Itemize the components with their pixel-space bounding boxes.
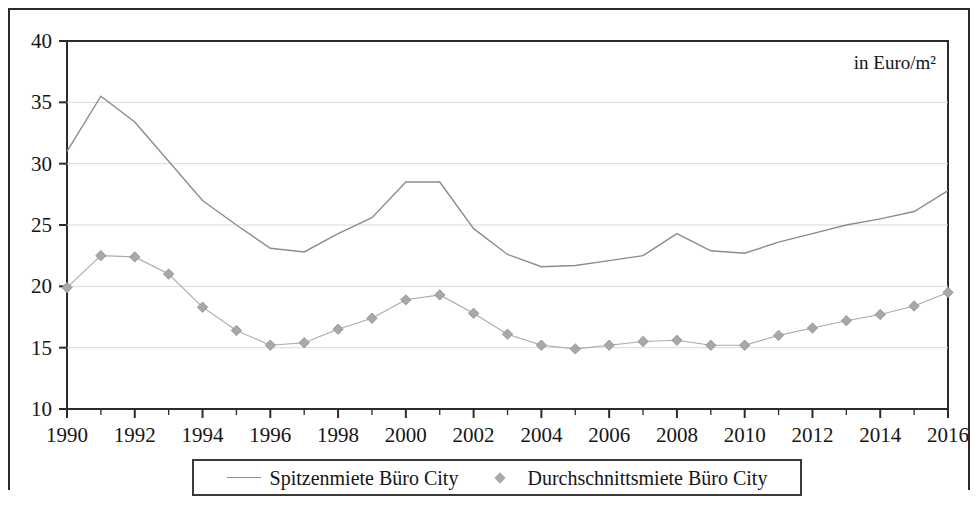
- legend-label-spitzenmiete: Spitzenmiete Büro City: [270, 468, 459, 488]
- x-axis-tick-label: 2006: [588, 423, 630, 447]
- y-axis-tick-label: 30: [31, 152, 52, 176]
- x-axis-tick-label: 2000: [385, 423, 427, 447]
- legend-line-swatch-icon: [227, 477, 261, 478]
- x-axis-tick-label: 1996: [249, 423, 291, 447]
- y-axis-tick-label: 15: [31, 336, 52, 360]
- y-axis-tick-label: 25: [31, 213, 52, 237]
- x-axis-tick-label: 2016: [927, 423, 969, 447]
- x-axis-tick-label: 2004: [520, 423, 563, 447]
- x-axis-tick-label: 2010: [724, 423, 766, 447]
- y-axis-tick-label: 35: [31, 90, 52, 114]
- legend-entry-spitzenmiete: Spitzenmiete Büro City: [227, 468, 459, 488]
- legend-label-durchschnittsmiete: Durchschnittsmiete Büro City: [527, 468, 767, 488]
- unit-annotation: in Euro/m²: [854, 52, 937, 73]
- x-axis-tick-label: 1998: [317, 423, 359, 447]
- x-axis-tick-label: 2002: [453, 423, 495, 447]
- x-axis-tick-label: 1992: [114, 423, 156, 447]
- legend-diamond-swatch-icon: [484, 472, 518, 484]
- x-axis-tick-label: 2008: [656, 423, 698, 447]
- y-axis-tick-label: 10: [31, 397, 52, 421]
- line-chart-canvas: 1015202530354019901992199419961998200020…: [0, 0, 977, 518]
- x-axis-tick-label: 1990: [46, 423, 88, 447]
- plot-wrapper: 1015202530354019901992199419961998200020…: [0, 0, 977, 518]
- y-axis-tick-label: 20: [31, 274, 52, 298]
- y-axis-tick-label: 40: [31, 29, 52, 53]
- chart-figure: 1015202530354019901992199419961998200020…: [0, 0, 977, 518]
- x-axis-tick-label: 2014: [859, 423, 902, 447]
- legend-entry-durchschnittsmiete: Durchschnittsmiete Büro City: [484, 468, 767, 488]
- x-axis-tick-label: 2012: [791, 423, 833, 447]
- chart-legend: Spitzenmiete Büro City Durchschnittsmiet…: [192, 459, 802, 496]
- x-axis-tick-label: 1994: [182, 423, 225, 447]
